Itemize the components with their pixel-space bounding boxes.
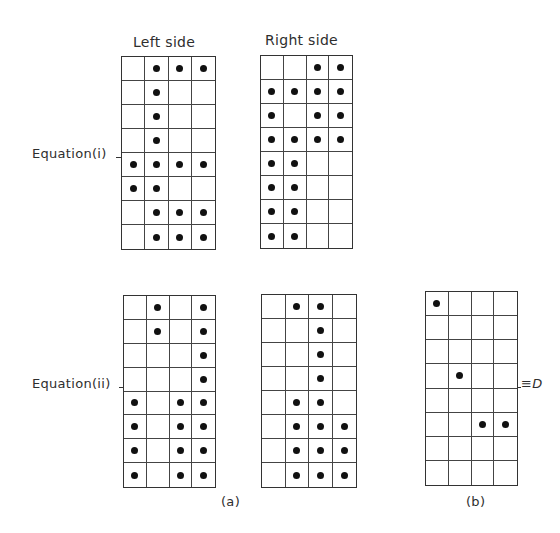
- grid-cell: [309, 415, 333, 439]
- grid-cell: [262, 295, 286, 319]
- grid-cell: [309, 463, 333, 487]
- grid-cell: [192, 296, 215, 320]
- grid-cell: [309, 439, 333, 463]
- grid-cell: [472, 389, 495, 413]
- grid-cell: [449, 413, 472, 437]
- grid-result-d: [425, 291, 518, 486]
- grid-cell: [147, 463, 170, 487]
- dot-icon: [176, 161, 183, 168]
- grid-cell: [170, 439, 193, 463]
- grid-cell: [286, 295, 310, 319]
- dot-icon: [131, 423, 138, 430]
- dot-icon: [131, 399, 138, 406]
- grid-cell: [284, 56, 307, 80]
- dot-icon: [268, 233, 275, 240]
- dot-icon: [337, 64, 344, 71]
- grid-cell: [494, 389, 517, 413]
- dot-icon: [291, 208, 298, 215]
- grid-cell: [472, 316, 495, 340]
- grid-cell: [329, 152, 352, 176]
- grid-cell: [124, 415, 147, 439]
- grid-cell: [449, 316, 472, 340]
- dot-icon: [314, 112, 321, 119]
- grid-cell: [170, 296, 193, 320]
- dot-icon: [291, 160, 298, 167]
- dot-icon: [268, 88, 275, 95]
- header-left-side: Left side: [133, 34, 195, 50]
- grid-cell: [426, 316, 449, 340]
- dot-icon: [317, 351, 324, 358]
- dot-icon: [177, 472, 184, 479]
- grid-cell: [309, 319, 333, 343]
- dot-icon: [433, 300, 440, 307]
- grid-cell: [124, 368, 147, 392]
- grid-cell: [333, 463, 357, 487]
- dot-icon: [314, 64, 321, 71]
- grid-cell: [147, 296, 170, 320]
- grid-cell: [284, 200, 307, 224]
- grid-cell: [124, 439, 147, 463]
- grid-cell: [284, 80, 307, 104]
- grid-cell: [261, 152, 284, 176]
- grid-cell: [286, 439, 310, 463]
- grid-cell: [262, 439, 286, 463]
- grid-cell: [307, 56, 330, 80]
- dot-icon: [268, 112, 275, 119]
- dot-icon: [200, 423, 207, 430]
- grid-cell: [170, 463, 193, 487]
- grid-cell: [449, 461, 472, 485]
- grid-cell: [192, 344, 215, 368]
- grid-cell: [261, 56, 284, 80]
- grid-cell: [122, 201, 145, 225]
- grid-cell: [329, 80, 352, 104]
- grid-cell: [262, 343, 286, 367]
- dot-icon: [341, 423, 348, 430]
- grid-cell: [145, 81, 168, 105]
- grid-cell: [261, 224, 284, 248]
- dot-icon: [268, 160, 275, 167]
- grid-cell: [192, 57, 215, 81]
- grid-cell: [426, 364, 449, 388]
- grid-cell: [262, 391, 286, 415]
- grid-cell: [169, 57, 192, 81]
- caption-a: (a): [221, 494, 240, 509]
- dot-icon: [153, 161, 160, 168]
- grid-eq2-right: [261, 294, 357, 488]
- grid-cell: [147, 415, 170, 439]
- grid-cell: [122, 81, 145, 105]
- grid-cell: [145, 177, 168, 201]
- dot-icon: [176, 209, 183, 216]
- grid-cell: [426, 461, 449, 485]
- grid-cell: [170, 320, 193, 344]
- grid-cell: [449, 437, 472, 461]
- grid-cell: [286, 415, 310, 439]
- grid-cell: [261, 200, 284, 224]
- grid-cell: [262, 367, 286, 391]
- grid-cell: [472, 461, 495, 485]
- grid-cell: [192, 81, 215, 105]
- grid-cell: [284, 104, 307, 128]
- dot-icon: [337, 136, 344, 143]
- dot-icon: [200, 399, 207, 406]
- dot-icon: [200, 209, 207, 216]
- dot-icon: [293, 447, 300, 454]
- dot-icon: [153, 89, 160, 96]
- dot-icon: [268, 136, 275, 143]
- grid-cell: [145, 225, 168, 249]
- dot-icon: [177, 399, 184, 406]
- dot-icon: [200, 65, 207, 72]
- grid-cell: [122, 177, 145, 201]
- dot-icon: [131, 472, 138, 479]
- dot-icon: [502, 421, 509, 428]
- grid-cell: [145, 201, 168, 225]
- grid-cell: [261, 128, 284, 152]
- dot-icon: [176, 65, 183, 72]
- dot-icon: [341, 472, 348, 479]
- grid-cell: [494, 340, 517, 364]
- grid-cell: [192, 225, 215, 249]
- dot-icon: [317, 327, 324, 334]
- grid-cell: [307, 104, 330, 128]
- grid-cell: [124, 296, 147, 320]
- dot-icon: [291, 88, 298, 95]
- grid-cell: [192, 105, 215, 129]
